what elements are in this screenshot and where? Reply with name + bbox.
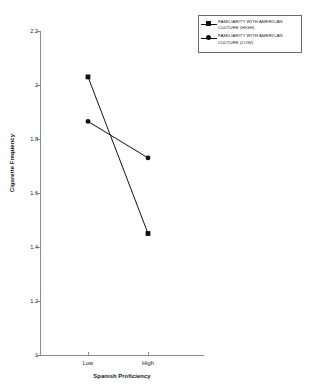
series-line: [88, 77, 148, 234]
data-point-square: [86, 75, 91, 80]
series-high: [86, 75, 151, 236]
data-point-circle: [86, 119, 91, 124]
data-point-square: [146, 231, 151, 236]
plot-area: [0, 0, 312, 388]
data-point-circle: [146, 156, 151, 161]
series-line: [88, 121, 148, 157]
line-chart: FAMILIARITY WITH AMERICAN CULTURE (HIGH)…: [0, 0, 312, 388]
